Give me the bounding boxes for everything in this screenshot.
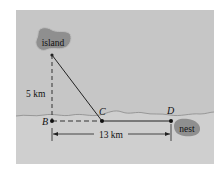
point-c — [100, 119, 104, 123]
island-label: island — [42, 38, 65, 48]
island-nest-diagram: island nest B C D 5 km 13 km — [0, 0, 223, 173]
point-d — [169, 119, 173, 123]
island-point — [50, 53, 53, 56]
label-d: D — [166, 105, 175, 116]
vertical-distance-label: 5 km — [26, 89, 46, 99]
label-b: B — [42, 116, 48, 127]
horizontal-distance-label: 13 km — [99, 130, 124, 140]
nest-label: nest — [179, 124, 195, 134]
label-c: C — [99, 106, 106, 117]
point-b — [50, 119, 54, 123]
